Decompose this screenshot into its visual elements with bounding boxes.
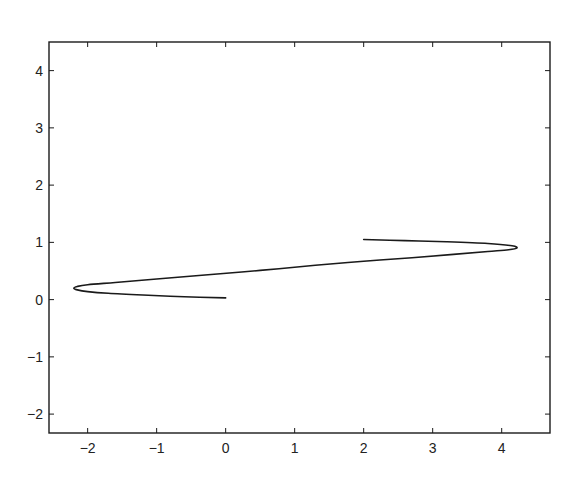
x-tick-label: 3: [429, 440, 437, 456]
y-tick-label: −2: [27, 406, 43, 422]
y-tick-label: 2: [35, 177, 43, 193]
x-axis-ticks: −2−101234: [80, 42, 506, 456]
plot-area: [74, 240, 517, 298]
x-tick-label: −2: [80, 440, 96, 456]
x-tick-label: 1: [291, 440, 299, 456]
y-tick-label: 3: [35, 120, 43, 136]
y-tick-label: 4: [35, 63, 43, 79]
x-tick-label: 4: [498, 440, 506, 456]
axes-box: [49, 42, 550, 433]
axes-frame: [49, 42, 550, 433]
y-tick-label: −1: [27, 349, 43, 365]
chart-figure: −2−101234 −2−101234: [0, 0, 576, 479]
x-tick-label: 2: [360, 440, 368, 456]
y-tick-label: 0: [35, 292, 43, 308]
x-tick-label: −1: [149, 440, 165, 456]
x-tick-label: 0: [222, 440, 230, 456]
series-line-curve: [74, 240, 517, 298]
y-tick-label: 1: [35, 234, 43, 250]
